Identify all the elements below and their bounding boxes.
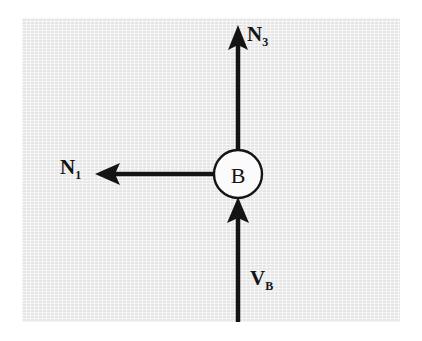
arrow-n1 (95, 163, 215, 185)
node-b-label: B (231, 163, 246, 188)
label-n1-base: N (60, 155, 75, 179)
label-n1-subscript: 1 (75, 168, 81, 182)
label-n3-subscript: 3 (262, 35, 268, 49)
label-n3-base: N (247, 22, 262, 46)
label-vb: VB (250, 268, 273, 292)
label-vb-subscript: B (265, 279, 273, 293)
arrow-vb (227, 197, 249, 322)
node-b: B (214, 150, 262, 198)
label-n1: N1 (60, 157, 81, 181)
arrow-n3 (228, 25, 248, 152)
label-n3: N3 (247, 24, 268, 48)
label-vb-base: V (250, 266, 265, 290)
figure-root: B N3 N1 VB (0, 0, 422, 341)
